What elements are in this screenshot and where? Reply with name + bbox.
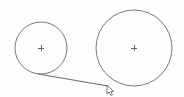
small-circle[interactable]	[15, 22, 67, 74]
small-circle-center-cross-icon	[38, 45, 44, 51]
large-circle[interactable]	[96, 10, 172, 86]
drawing-canvas[interactable]	[0, 0, 184, 97]
tangent-line-preview	[38, 74, 108, 86]
drawing-svg[interactable]	[0, 0, 184, 97]
mouse-pointer-icon	[107, 85, 114, 96]
large-circle-center-cross-icon	[131, 45, 137, 51]
